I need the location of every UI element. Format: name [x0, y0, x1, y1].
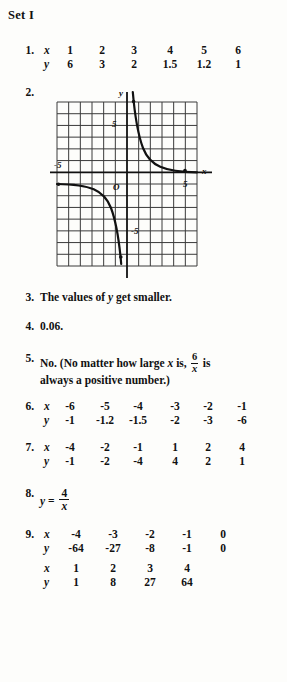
- cell-y-3: 64: [173, 576, 201, 588]
- row-label-y: y: [44, 58, 49, 70]
- cell-x-1: -3: [99, 528, 127, 540]
- x-tick-5-label: 5: [183, 179, 188, 189]
- cell-y-2: 27: [136, 576, 164, 588]
- equation-equals: =: [48, 495, 55, 507]
- cell-x-5: -1: [228, 400, 256, 412]
- cell-y-1: 8: [99, 576, 127, 588]
- item-3-text-before: The values of: [40, 291, 108, 303]
- cell-x-0: 1: [62, 562, 90, 574]
- cell-y-3: 1.5: [156, 58, 184, 70]
- row-label-y: y: [44, 576, 49, 588]
- cell-x-3: 4: [156, 44, 184, 56]
- cell-x-2: -4: [124, 400, 152, 412]
- x-tick-neg5-label: -5: [54, 160, 62, 170]
- cell-x-4: 2: [194, 441, 222, 453]
- cell-x-5: 6: [224, 44, 252, 56]
- item-5-line-1: No. (No matter how large x is, 6 x is: [40, 352, 210, 374]
- cell-y-3: 4: [161, 455, 189, 467]
- cell-x-2: -2: [136, 528, 164, 540]
- origin-label: O: [113, 182, 120, 192]
- item-3-text: The values of y get smaller.: [40, 291, 172, 303]
- y-axis-label: y: [119, 88, 123, 98]
- item-6-number: 6.: [16, 400, 34, 412]
- fraction-numerator: 6: [191, 352, 198, 363]
- cell-x-4: 5: [190, 44, 218, 56]
- fraction-denominator: x: [59, 499, 69, 512]
- cell-y-1: -2: [91, 455, 119, 467]
- cell-x-3: 1: [161, 441, 189, 453]
- row-label-x: x: [44, 400, 50, 412]
- curve-point: [132, 100, 136, 104]
- cell-x-0: -4: [56, 441, 84, 453]
- fraction-numerator: 4: [59, 487, 69, 499]
- cell-x-0: -4: [62, 528, 90, 540]
- curve-point: [183, 169, 187, 173]
- row-label-y: y: [44, 414, 49, 426]
- graph-svg: [40, 90, 215, 280]
- cell-y-4: 0: [209, 542, 237, 554]
- curve-point: [57, 182, 61, 186]
- cell-y-5: 1: [224, 58, 252, 70]
- cell-x-3: -1: [173, 528, 201, 540]
- y-tick-neg5-label: -5: [131, 226, 139, 236]
- item-4-text: 0.06.: [40, 320, 63, 332]
- cell-x-2: 3: [136, 562, 164, 574]
- fraction-six-over-x: 6 x: [191, 352, 198, 374]
- answer-key-page: Set I 1. x 1 2 3 4 5 6 y 6 3 2 1.5 1.2 1: [0, 0, 287, 682]
- cell-y-0: -64: [62, 542, 90, 554]
- row-label-x: x: [44, 562, 50, 574]
- row-label-x: x: [44, 441, 50, 453]
- item-3-number: 3.: [16, 291, 34, 303]
- cell-y-4: 2: [194, 455, 222, 467]
- item-7-number: 7.: [16, 441, 34, 453]
- cell-y-5: 1: [228, 455, 256, 467]
- cell-x-3: -3: [161, 400, 189, 412]
- item-5-text-c: is: [203, 357, 211, 369]
- item-3-text-after: get smaller.: [113, 291, 172, 303]
- cell-x-2: 3: [120, 44, 148, 56]
- cell-x-4: 0: [209, 528, 237, 540]
- item-8-equation: y = 4 x: [40, 487, 71, 512]
- cell-x-1: 2: [88, 44, 116, 56]
- item-2-number: 2.: [16, 86, 34, 98]
- cell-y-1: -27: [99, 542, 127, 554]
- item-4-number: 4.: [16, 320, 34, 332]
- fraction-four-over-x: 4 x: [59, 487, 69, 512]
- cell-y-0: -1: [56, 455, 84, 467]
- x-axis-label: x: [202, 166, 207, 176]
- row-label-x: x: [44, 528, 50, 540]
- item-5-text-b: is,: [173, 357, 186, 369]
- cell-x-3: 4: [173, 562, 201, 574]
- curve-point: [119, 255, 123, 259]
- equation-lhs: y: [40, 495, 45, 507]
- cell-y-0: -1: [56, 414, 84, 426]
- cell-y-1: 3: [88, 58, 116, 70]
- cell-x-1: -2: [91, 441, 119, 453]
- item-1-number: 1.: [16, 44, 34, 56]
- cell-x-5: 4: [228, 441, 256, 453]
- cell-y-0: 6: [56, 58, 84, 70]
- cell-y-2: -1.5: [124, 414, 152, 426]
- item-8-number: 8.: [16, 487, 34, 499]
- item-9-number: 9.: [16, 528, 34, 540]
- cell-y-5: -6: [228, 414, 256, 426]
- cell-x-1: 2: [99, 562, 127, 574]
- cell-y-2: 2: [120, 58, 148, 70]
- cell-x-1: -5: [91, 400, 119, 412]
- row-label-y: y: [44, 455, 49, 467]
- hyperbola-graph: y x 5 -5 O 5 -5: [40, 90, 215, 280]
- cell-y-3: -1: [173, 542, 201, 554]
- cell-y-2: -8: [136, 542, 164, 554]
- cell-x-0: 1: [56, 44, 84, 56]
- cell-y-4: 1.2: [190, 58, 218, 70]
- cell-y-0: 1: [62, 576, 90, 588]
- cell-y-3: -2: [161, 414, 189, 426]
- item-5-line-2: always a positive number.): [40, 374, 170, 386]
- fraction-denominator: x: [191, 363, 198, 375]
- y-tick-5-label: 5: [112, 119, 117, 129]
- cell-x-0: -6: [56, 400, 84, 412]
- cell-y-1: -1.2: [91, 414, 119, 426]
- row-label-x: x: [44, 44, 50, 56]
- item-5-number: 5.: [16, 352, 34, 364]
- item-5-text-a: No. (No matter how large: [40, 357, 168, 369]
